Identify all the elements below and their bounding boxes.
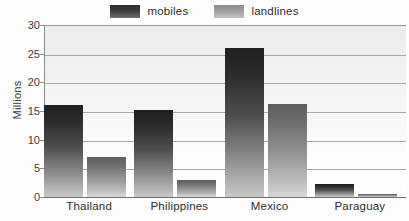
y-tick-mark-0 <box>40 197 44 198</box>
landlines-swatch-icon <box>214 5 244 18</box>
bar-mobiles-paraguay[interactable] <box>315 184 354 197</box>
bar-mobiles-thailand[interactable] <box>44 105 83 197</box>
bar-mobiles-mexico[interactable] <box>225 48 264 197</box>
x-axis-line <box>44 197 406 198</box>
mobiles-swatch-icon <box>110 5 140 18</box>
y-tick-mark-15 <box>40 111 44 112</box>
y-tick-label-10: 10 <box>18 134 40 145</box>
bar-landlines-thailand[interactable] <box>87 157 126 197</box>
legend-label-mobiles: mobiles <box>147 6 188 18</box>
x-label-thailand: Thailand <box>44 200 134 212</box>
x-label-philippines: Philippines <box>134 200 224 212</box>
y-axis-ticks: 051015202530 <box>18 0 40 221</box>
y-tick-label-25: 25 <box>18 48 40 59</box>
legend-label-landlines: landlines <box>251 6 298 18</box>
bars-layer <box>44 25 405 197</box>
y-tick-label-20: 20 <box>18 77 40 88</box>
y-tick-label-5: 5 <box>18 163 40 174</box>
bar-landlines-philippines[interactable] <box>177 180 216 197</box>
legend-entry-mobiles[interactable]: mobiles <box>110 5 188 18</box>
bar-chart: mobiles landlines Millions 051015202530 … <box>0 0 409 221</box>
y-tick-mark-25 <box>40 54 44 55</box>
bar-landlines-mexico[interactable] <box>268 104 307 197</box>
bar-mobiles-philippines[interactable] <box>134 110 173 197</box>
bar-landlines-paraguay[interactable] <box>358 194 397 197</box>
y-tick-label-15: 15 <box>18 106 40 117</box>
x-axis-labels: ThailandPhilippinesMexicoParaguay <box>44 200 405 218</box>
y-tick-label-0: 0 <box>18 192 40 203</box>
y-tick-mark-10 <box>40 140 44 141</box>
y-tick-mark-20 <box>40 82 44 83</box>
legend-entry-landlines[interactable]: landlines <box>214 5 298 18</box>
x-label-paraguay: Paraguay <box>315 200 405 212</box>
y-tick-mark-30 <box>40 25 44 26</box>
y-tick-label-30: 30 <box>18 20 40 31</box>
y-tick-mark-5 <box>40 168 44 169</box>
chart-legend: mobiles landlines <box>0 2 409 21</box>
x-label-mexico: Mexico <box>225 200 315 212</box>
